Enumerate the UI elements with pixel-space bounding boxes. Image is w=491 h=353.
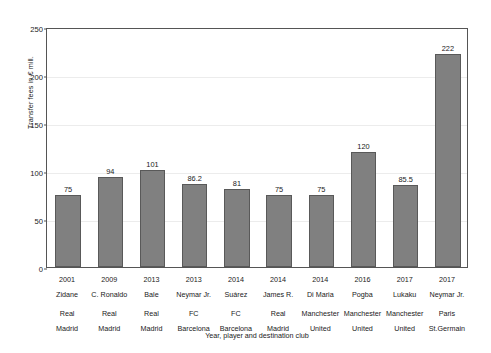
x-axis-tick-group: 2017Neymar Jr.ParisSt.Germain — [426, 273, 468, 336]
x-tick-year: 2014 — [215, 273, 257, 288]
x-axis-tick-group: 2014SuárezFCBarcelona — [215, 273, 257, 336]
x-tick-year: 2001 — [46, 273, 88, 288]
y-axis-tick-mark — [44, 77, 47, 78]
bar: 94 — [98, 177, 123, 267]
x-tick-year: 2014 — [257, 273, 299, 288]
x-axis-tick-group: 2017LukakuManchesterUnited — [384, 273, 426, 336]
x-tick-year: 2017 — [426, 273, 468, 288]
bar-value-label: 75 — [275, 185, 283, 194]
x-axis-tick-group: 2016PogbaManchesterUnited — [341, 273, 383, 336]
x-tick-club-line1: Real — [130, 307, 172, 322]
x-tick-club-line1: Paris — [426, 307, 468, 322]
x-tick-club-line1: Real — [257, 307, 299, 322]
gridline — [47, 125, 467, 126]
y-axis-tick-label: 150 — [30, 121, 43, 130]
bar-value-label: 120 — [357, 142, 369, 151]
bar: 81 — [224, 189, 249, 267]
bar: 86.2 — [182, 184, 207, 267]
x-tick-club-line1: Manchester — [341, 307, 383, 322]
bar: 120 — [351, 152, 376, 267]
bar: 75 — [55, 195, 80, 267]
bar-value-label: 101 — [146, 160, 158, 169]
x-tick-club-line1: FC — [215, 307, 257, 322]
bar-value-label: 86.2 — [187, 174, 201, 183]
gridline — [47, 77, 467, 78]
x-tick-player: Neymar Jr. — [173, 288, 215, 303]
bar-value-label: 85.5 — [398, 175, 412, 184]
y-axis-tick-label: 250 — [30, 25, 43, 34]
y-axis-tick-mark — [44, 125, 47, 126]
bar: 101 — [140, 170, 165, 267]
x-axis-tick-group: 2001ZidaneRealMadrid — [46, 273, 88, 336]
x-tick-player: Di Maria — [299, 288, 341, 303]
x-tick-player: Bale — [130, 288, 172, 303]
x-tick-player: Zidane — [46, 288, 88, 303]
y-axis-tick-label: 100 — [30, 169, 43, 178]
x-axis-tick-group: 2009C. RonaldoRealMadrid — [88, 273, 130, 336]
x-tick-player: C. Ronaldo — [88, 288, 130, 303]
y-axis-tick-mark — [44, 173, 47, 174]
y-axis-title: Transfer fees in € mill. — [26, 13, 35, 173]
y-axis-tick-mark — [44, 221, 47, 222]
bar-value-label: 75 — [64, 185, 72, 194]
x-tick-club-line1: FC — [173, 307, 215, 322]
bar: 75 — [309, 195, 334, 267]
bar-chart-figure: Transfer fees in € mill. 050100150200250… — [0, 0, 491, 353]
y-axis-tick-label: 0 — [39, 265, 43, 274]
y-axis-tick-label: 50 — [35, 217, 43, 226]
y-axis-tick-label: 200 — [30, 73, 43, 82]
x-tick-year: 2014 — [299, 273, 341, 288]
x-axis-tick-group: 2013BaleRealMadrid — [130, 273, 172, 336]
x-axis-tick-group: 2014James R.RealMadrid — [257, 273, 299, 336]
x-tick-player: Pogba — [341, 288, 383, 303]
x-tick-player: Suárez — [215, 288, 257, 303]
plot-area: 050100150200250 759410186.281757512085.5… — [46, 28, 468, 268]
x-tick-player: Lukaku — [384, 288, 426, 303]
x-tick-club-line1: Manchester — [384, 307, 426, 322]
x-tick-player: James R. — [257, 288, 299, 303]
x-tick-year: 2013 — [130, 273, 172, 288]
bar-value-label: 222 — [442, 44, 454, 53]
x-tick-year: 2013 — [173, 273, 215, 288]
x-tick-club-line1: Real — [88, 307, 130, 322]
x-axis-title: Year, player and destination club — [46, 331, 468, 340]
x-axis-tick-group: 2014Di MariaManchesterUnited — [299, 273, 341, 336]
y-axis-tick-mark — [44, 269, 47, 270]
x-tick-year: 2016 — [341, 273, 383, 288]
x-tick-player: Neymar Jr. — [426, 288, 468, 303]
bar-value-label: 75 — [317, 185, 325, 194]
x-tick-year: 2009 — [88, 273, 130, 288]
x-tick-year: 2017 — [384, 273, 426, 288]
bar: 222 — [435, 54, 460, 267]
x-tick-club-line1: Manchester — [299, 307, 341, 322]
bar-value-label: 94 — [106, 167, 114, 176]
bar: 85.5 — [393, 185, 418, 267]
x-tick-club-line1: Real — [46, 307, 88, 322]
y-axis-tick-mark — [44, 29, 47, 30]
bar: 75 — [266, 195, 291, 267]
bar-value-label: 81 — [233, 179, 241, 188]
x-axis-tick-group: 2013Neymar Jr.FCBarcelona — [173, 273, 215, 336]
